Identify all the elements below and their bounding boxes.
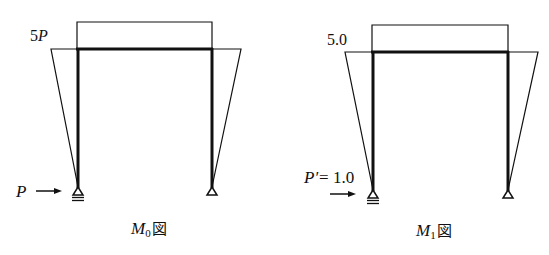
- m0-caption: M0図: [130, 219, 167, 239]
- m1-moment-label: 5.0: [327, 31, 347, 48]
- m0-left-pin-support-icon: [73, 187, 83, 195]
- m0-left-column-moment-outline: [51, 49, 78, 187]
- m1-beam-moment-outline: [372, 25, 508, 52]
- m1-right-pin-support-icon: [503, 190, 513, 198]
- m0-diagram: 5P P M0図: [15, 22, 241, 239]
- m1-caption: M1図: [415, 221, 452, 241]
- m0-load-arrow-icon: [54, 188, 62, 194]
- m0-load-label: P: [15, 182, 26, 201]
- m1-load-arrow-icon: [348, 191, 356, 197]
- m0-right-column-moment-outline: [212, 49, 241, 187]
- m1-right-column-moment-outline: [508, 52, 538, 190]
- m0-beam-moment-outline: [77, 22, 212, 49]
- m0-right-pin-support-icon: [207, 187, 217, 195]
- moment-diagrams: 5P P M0図 5.0 P′= 1.0 M1図: [0, 0, 549, 255]
- m1-left-pin-support-icon: [368, 190, 378, 198]
- m1-diagram: 5.0 P′= 1.0 M1図: [303, 25, 538, 241]
- m0-moment-label: 5P: [30, 27, 48, 44]
- m1-load-label: P′= 1.0: [303, 168, 354, 187]
